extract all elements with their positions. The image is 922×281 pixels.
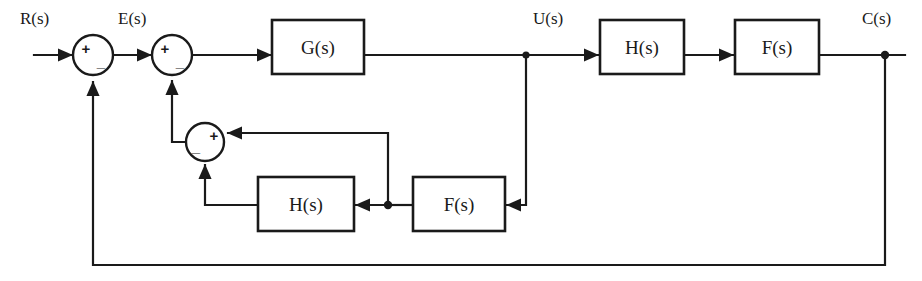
block-h-bottom-label: H(s) <box>289 194 323 216</box>
summing-junction-outer-circle <box>73 35 113 75</box>
block-h-top[interactable]: H(s) <box>600 20 684 74</box>
block-f-bottom[interactable]: F(s) <box>413 177 505 231</box>
signal-label-input: R(s) <box>20 9 49 28</box>
block-h-top-label: H(s) <box>625 37 659 59</box>
node-dot-bottom-tap <box>384 201 392 209</box>
block-h-bottom[interactable]: H(s) <box>258 177 354 231</box>
summing-junction-minor[interactable]: + _ <box>186 123 224 161</box>
control-system-diagram: G(s) H(s) F(s) H(s) F(s) + _ + _ <box>0 0 922 281</box>
summing-junction-outer-sign-plus: + <box>82 40 91 57</box>
summing-junction-inner-circle <box>152 35 192 75</box>
summing-junction-outer-sign-minus: _ <box>96 53 106 70</box>
summing-junction-outer[interactable]: + _ <box>73 35 113 75</box>
summing-junction-minor-sign-plus: + <box>210 127 219 144</box>
block-f-top-label: F(s) <box>762 37 793 59</box>
signal-label-error: E(s) <box>118 9 146 28</box>
block-f-top[interactable]: F(s) <box>735 20 819 74</box>
signal-label-output: C(s) <box>862 9 891 28</box>
block-f-bottom-label: F(s) <box>444 194 475 216</box>
wire-u-tap-to-f-bottom <box>507 55 526 205</box>
node-dot-c-tap <box>881 51 889 59</box>
summing-junction-inner-sign-plus: + <box>161 40 170 57</box>
summing-junction-inner-sign-minus: _ <box>175 53 185 70</box>
wire-sum-minor-to-sum-inner <box>172 81 186 142</box>
wire-h-bottom-to-sum-minor-minus <box>205 165 258 205</box>
block-diagram-canvas: G(s) H(s) F(s) H(s) F(s) + _ + _ <box>0 0 922 281</box>
node-dot-u-tap <box>522 51 529 58</box>
block-g-forward-label: G(s) <box>301 37 335 59</box>
summing-junction-minor-sign-minus: _ <box>191 138 201 155</box>
summing-junction-inner[interactable]: + _ <box>152 35 192 75</box>
signal-label-plant-out: U(s) <box>533 9 563 28</box>
block-g-forward[interactable]: G(s) <box>272 20 364 74</box>
